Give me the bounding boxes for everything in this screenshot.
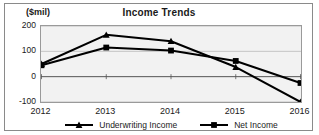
data-point-marker — [298, 80, 301, 86]
data-point-marker — [168, 48, 174, 54]
series-line-1 — [42, 35, 301, 102]
y-axis-unit-label: ($mil) — [26, 7, 50, 17]
y-axis-tick-label: 200 — [2, 20, 36, 30]
triangle-marker-icon — [64, 120, 94, 130]
x-axis-tick-label: 2016 — [280, 106, 319, 116]
y-axis-tick-label: -100 — [2, 96, 36, 106]
x-axis-tick-label: 2012 — [21, 106, 61, 116]
chart-screenshot: Income Trends ($mil) 2001000-100 2012201… — [0, 0, 318, 135]
x-axis-tick-label: 2015 — [215, 106, 255, 116]
y-axis-tick-label: 100 — [2, 45, 36, 55]
y-axis-tick-label: 0 — [2, 71, 36, 81]
legend-item: Net Income — [199, 120, 277, 130]
legend-item-label: Underwriting Income — [99, 120, 177, 130]
plot-area — [40, 25, 302, 103]
chart-legend: Underwriting IncomeNet Income — [40, 118, 302, 131]
x-axis-tick-label: 2014 — [150, 106, 190, 116]
data-point-marker — [103, 45, 109, 51]
data-point-marker — [41, 62, 44, 68]
data-point-marker — [233, 58, 239, 64]
legend-item: Underwriting Income — [64, 120, 177, 130]
square-marker-icon — [199, 120, 229, 130]
x-axis-tick-label: 2013 — [85, 106, 125, 116]
legend-item-label: Net Income — [234, 120, 277, 130]
chart-plot-svg — [41, 26, 301, 102]
